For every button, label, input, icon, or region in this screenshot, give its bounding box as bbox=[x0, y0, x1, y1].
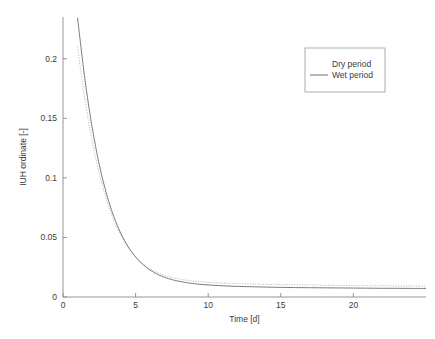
x-tick-label: 0 bbox=[61, 300, 66, 310]
x-tick-label: 5 bbox=[133, 300, 138, 310]
x-tick-label: 15 bbox=[276, 300, 286, 310]
x-axis-title: Time [d] bbox=[229, 314, 259, 324]
chart-canvas: 05101520 00.050.10.150.2 Time [d] IUH or… bbox=[0, 0, 435, 339]
legend: Dry period Wet period bbox=[305, 48, 385, 92]
legend-label-wet-period: Wet period bbox=[332, 70, 373, 80]
x-tick-label: 20 bbox=[349, 300, 359, 310]
legend-label-dry-period: Dry period bbox=[332, 59, 371, 69]
y-tick-label: 0.1 bbox=[45, 173, 57, 183]
x-tick-label: 10 bbox=[203, 300, 213, 310]
chart-figure: 05101520 00.050.10.150.2 Time [d] IUH or… bbox=[0, 0, 435, 339]
y-tick-label: 0.05 bbox=[40, 232, 57, 242]
y-axis-title: IUH ordinate [-] bbox=[18, 128, 28, 186]
y-tick-label: 0 bbox=[52, 292, 57, 302]
x-axis-ticks: 05101520 bbox=[61, 293, 359, 310]
y-tick-label: 0.15 bbox=[40, 113, 57, 123]
y-tick-label: 0.2 bbox=[45, 54, 57, 64]
